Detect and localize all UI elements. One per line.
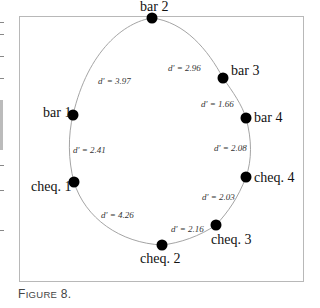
node-label-cheq1: cheq. 1	[31, 179, 71, 194]
edge-label-cheq3-cheq2: d' = 2.16	[171, 224, 204, 234]
edge-label-bar4-cheq4: d' = 2.08	[214, 143, 247, 153]
node-label-bar3: bar 3	[231, 63, 259, 78]
edge-label-cheq2-cheq1: d' = 4.26	[101, 210, 134, 220]
node-label-cheq2: cheq. 2	[140, 251, 180, 266]
edge-label-bar3-bar4: d' = 1.66	[201, 99, 234, 109]
edge-label-bar2-bar3: d' = 2.96	[168, 63, 201, 73]
edge-label-cheq4-cheq3: d' = 2.03	[202, 192, 235, 202]
node-label-bar1: bar 1	[43, 105, 71, 120]
figure-caption: FIGURE 8.	[18, 287, 71, 301]
node-label-cheq4: cheq. 4	[254, 170, 294, 185]
node-dot-cheq4	[241, 172, 252, 183]
node-label-bar4: bar 4	[254, 110, 282, 125]
node-dot-cheq2	[157, 240, 168, 251]
node-dot-bar4	[241, 113, 252, 124]
node-dot-bar3	[218, 73, 229, 84]
node-label-bar2: bar 2	[140, 0, 168, 14]
node-dot-bar2	[147, 13, 158, 24]
edge-label-cheq1-bar1: d' = 2.41	[73, 145, 106, 155]
node-dot-cheq3	[211, 220, 222, 231]
ring-arc	[69, 18, 250, 245]
edge-label-bar1-bar2: d' = 3.97	[98, 76, 131, 86]
circular-similarity-diagram: bar 2 bar 3 bar 4 cheq. 4 cheq. 3 cheq. …	[0, 0, 320, 308]
node-label-cheq3: cheq. 3	[211, 232, 251, 247]
